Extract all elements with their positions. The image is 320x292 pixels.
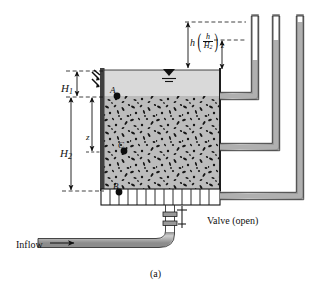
figure-caption: (a) [150, 269, 161, 279]
open-paren: ( [198, 34, 202, 50]
figure-canvas: H1 H2 z h ( h H2 ) z A C B Valve (open) … [0, 0, 320, 292]
manometer-3-fluid [220, 22, 300, 196]
label-z: z [86, 133, 90, 142]
label-inflow: Inflow [16, 240, 43, 250]
outlet-piping [38, 205, 175, 248]
fraction-h-over-H2: h H2 [203, 33, 214, 51]
manometer-1-fluid [220, 60, 255, 96]
tank-right-wall [219, 68, 221, 191]
manometer-tube-2 [220, 14, 280, 151]
wall-hatching [92, 70, 100, 86]
manometer-tube-3 [220, 14, 304, 200]
fraction-denominator: H2 [203, 41, 214, 51]
close-paren: ) [215, 34, 219, 50]
fraction-numerator: h [205, 33, 211, 41]
label-point-C: C [118, 141, 124, 150]
fraction-multiplier-z: z [221, 41, 224, 51]
fluid-tank-diagram [0, 0, 320, 292]
label-H2: H2 [60, 148, 72, 161]
label-H1: H1 [61, 83, 73, 96]
label-valve: Valve (open) [207, 216, 258, 226]
tank-left-wall [100, 68, 105, 191]
label-point-A: A [110, 86, 116, 95]
label-h: h [190, 38, 195, 48]
label-point-B: B [113, 182, 119, 191]
manometer-tube-1 [220, 14, 259, 100]
water-layer [104, 70, 220, 96]
label-h-over-H2-z: ( h H2 ) z [196, 33, 224, 51]
